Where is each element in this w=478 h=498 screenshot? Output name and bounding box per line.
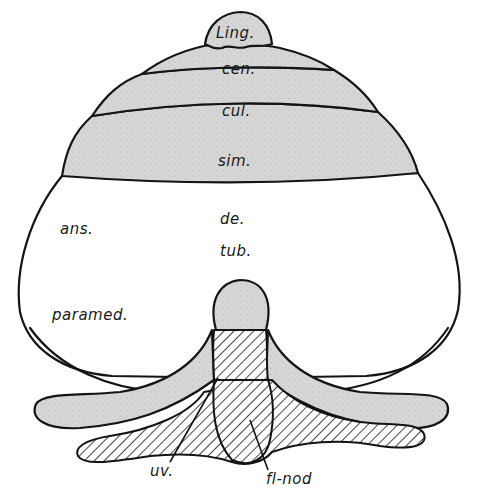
pyramis-region bbox=[213, 280, 268, 330]
label-declive: de. bbox=[220, 210, 245, 228]
label-flocculonodular: fl-nod bbox=[266, 470, 312, 488]
label-paramedian: paramed. bbox=[51, 306, 128, 324]
label-lingula: Ling. bbox=[216, 24, 255, 42]
label-central: cen. bbox=[222, 60, 256, 78]
cerebellum-diagram: Ling. cen. cul. sim. ans. de. tub. param… bbox=[0, 0, 478, 498]
label-ansiform: ans. bbox=[60, 220, 93, 238]
label-culmen: cul. bbox=[222, 102, 251, 120]
uvula-region bbox=[213, 330, 273, 463]
label-uvula: uv. bbox=[150, 462, 173, 480]
label-simplex: sim. bbox=[218, 152, 251, 170]
label-tuber: tub. bbox=[220, 242, 252, 260]
